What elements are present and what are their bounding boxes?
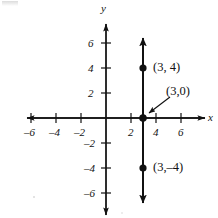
point-3-neg4 [139, 164, 146, 171]
y-axis [101, 24, 111, 215]
y-tick-label-4: 4 [88, 63, 94, 74]
x-tick-label--6: –6 [24, 127, 35, 138]
x-tick-label-2: 2 [128, 127, 134, 138]
x-tick-label-6: 6 [178, 127, 184, 138]
graph-canvas [0, 0, 218, 218]
y-tick-label--6: –6 [84, 188, 95, 199]
x-axis-label: x [208, 112, 213, 123]
y-axis-label: y [101, 3, 106, 14]
y-tick-label-6: 6 [88, 38, 94, 49]
y-tick-label--2: –2 [84, 138, 95, 149]
point-label-3-neg4: (3,–4) [153, 161, 183, 174]
coordinate-plane-figure: –6 –4 –2 2 4 6 6 4 2 –2 –4 –6 x y (3, 4)… [0, 0, 218, 218]
point-3-4 [139, 64, 146, 71]
y-tick-label-2: 2 [88, 88, 94, 99]
point-label-3-4: (3, 4) [153, 61, 180, 74]
point-3-0 [139, 114, 147, 122]
x-axis [27, 113, 205, 123]
point-label-3-0: (3,0) [166, 85, 190, 98]
callout-arrow-3-0 [149, 97, 170, 113]
x-tick-label--4: –4 [49, 127, 60, 138]
x-tick-label-4: 4 [153, 127, 159, 138]
y-tick-label--4: –4 [84, 163, 95, 174]
